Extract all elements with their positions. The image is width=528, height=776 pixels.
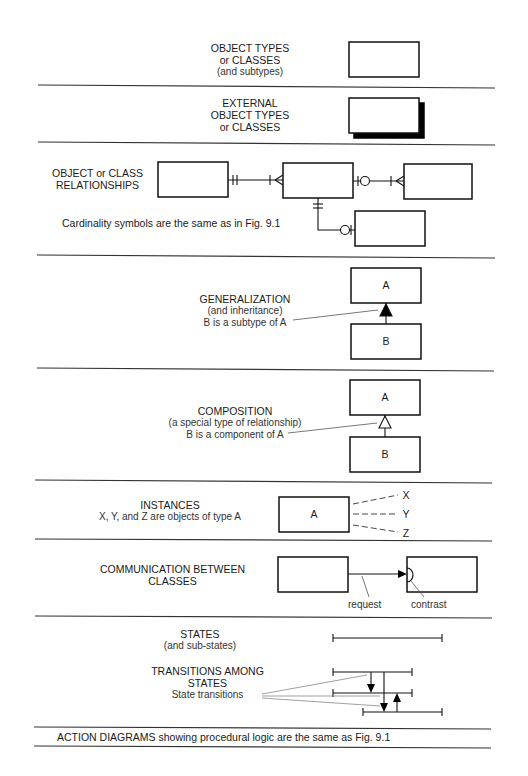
rel-box-left: [158, 162, 228, 197]
rel-box-right: [404, 164, 472, 199]
states-label: STATES (and sub-states): [150, 628, 250, 652]
rel-box-bottom: [355, 211, 425, 246]
request-label: request: [348, 599, 381, 610]
generalization-label: GENERALIZATION (and inheritance) B is a …: [185, 293, 305, 329]
instance-y: Y: [400, 508, 412, 520]
object-types-label: OBJECT TYPES or CLASSES (and subtypes): [200, 42, 300, 78]
transition-arrow-icon: [380, 703, 388, 712]
object-type-box: [349, 42, 419, 77]
gen-box-a-label: A: [351, 279, 421, 291]
action-diagrams-note: ACTION DIAGRAMS showing procedural logic…: [57, 731, 390, 743]
label-line: OBJECT TYPES: [200, 42, 300, 54]
instances-label: INSTANCES X, Y, and Z are objects of typ…: [80, 499, 260, 523]
label-title: COMPOSITION: [155, 405, 315, 417]
label-line: OBJECT TYPES: [200, 109, 300, 121]
instance-z: Z: [400, 527, 412, 539]
label-line: or CLASSES: [200, 121, 300, 133]
divider: [34, 746, 491, 748]
cardinality-note: Cardinality symbols are the same as in F…: [62, 217, 280, 229]
label-note: B is a component of A: [155, 429, 315, 441]
generalization-arrow-icon: [380, 304, 392, 316]
label-line: CLASSES: [100, 575, 245, 587]
external-label: EXTERNAL OBJECT TYPES or CLASSES: [200, 97, 300, 133]
instance-box-label: A: [279, 508, 349, 520]
composition-label: COMPOSITION (a special type of relations…: [155, 405, 315, 441]
transitions-label: TRANSITIONS AMONG STATES State transitio…: [150, 665, 265, 701]
request-arrow-icon: [398, 570, 407, 578]
divider: [38, 85, 495, 88]
label-line: EXTERNAL: [200, 97, 300, 109]
label-line: COMMUNICATION BETWEEN: [100, 563, 245, 575]
divider: [37, 368, 494, 371]
divider: [35, 480, 492, 483]
label-line: OBJECT or CLASS: [50, 167, 145, 179]
transition-arrow-icon: [393, 693, 401, 702]
label-note: State transitions: [150, 689, 265, 701]
composition-arrow-icon: [379, 416, 391, 428]
contrast-label: contrast: [411, 599, 447, 610]
comp-box-a-label: A: [350, 391, 420, 403]
label-sub: X, Y, and Z are objects of type A: [80, 511, 260, 523]
label-line: RELATIONSHIPS: [50, 179, 145, 191]
label-title: INSTANCES: [80, 499, 260, 511]
label-title: GENERALIZATION: [185, 293, 305, 305]
label-line: STATES: [150, 677, 265, 689]
relationships-label: OBJECT or CLASS RELATIONSHIPS: [50, 167, 145, 191]
comm-box-left: [278, 557, 348, 592]
instance-x: X: [400, 489, 412, 501]
label-title: STATES: [150, 628, 250, 640]
external-box: [349, 98, 419, 133]
divider: [35, 539, 492, 541]
divider: [37, 255, 495, 258]
gen-box-b-label: B: [351, 335, 421, 347]
label-sub: (and inheritance): [185, 305, 305, 317]
communication-label: COMMUNICATION BETWEEN CLASSES: [100, 563, 245, 587]
divider: [38, 142, 495, 145]
divider: [35, 616, 492, 618]
label-sub: (a special type of relationship): [155, 417, 315, 429]
label-line: or CLASSES: [200, 54, 300, 66]
divider: [34, 727, 491, 729]
rel-box-middle: [283, 163, 353, 198]
comp-box-b-label: B: [350, 448, 420, 460]
label-line: TRANSITIONS AMONG: [150, 665, 265, 677]
comm-box-right: [407, 557, 477, 592]
label-sub: (and subtypes): [200, 66, 300, 78]
label-sub: (and sub-states): [150, 640, 250, 652]
transition-arrow-icon: [367, 684, 375, 693]
label-note: B is a subtype of A: [185, 317, 305, 329]
